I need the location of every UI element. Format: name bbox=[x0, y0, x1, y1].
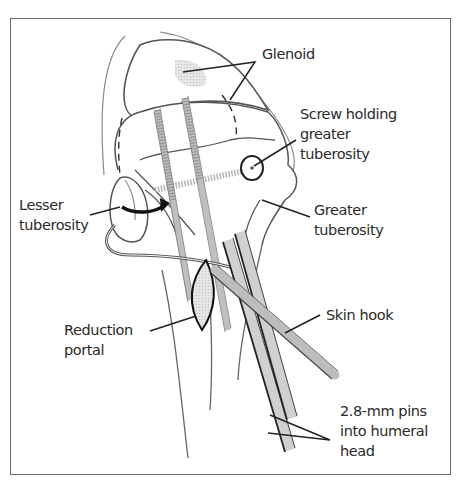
leader-skin-hook bbox=[285, 315, 320, 333]
label-greater-tuberosity: Greater tuberosity bbox=[314, 200, 383, 240]
label-reduction-portal: Reduction portal bbox=[64, 320, 133, 360]
label-lesser-tuberosity: Lesser tuberosity bbox=[19, 195, 88, 235]
label-skin-hook: Skin hook bbox=[326, 305, 393, 325]
long-pins bbox=[223, 230, 297, 452]
label-screw-holding-greater-tuberosity: Screw holding greater tuberosity bbox=[300, 104, 397, 164]
label-glenoid: Glenoid bbox=[262, 44, 315, 64]
label-2-8mm-pins: 2.8-mm pins into humeral head bbox=[340, 401, 428, 461]
